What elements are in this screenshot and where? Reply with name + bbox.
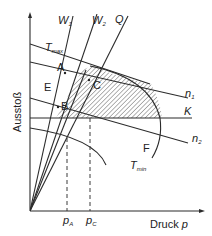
x-axis-label: Druck p — [150, 218, 188, 230]
operating-map-diagram: Ausstoß Druck p W1 W2 Q Tmax n1 K n2 Tmi… — [0, 0, 212, 236]
tmax-label: Tmax — [45, 41, 64, 54]
n1-label: n1 — [185, 87, 194, 100]
n2-label: n2 — [192, 132, 202, 145]
x-axis-arrow-icon — [199, 209, 205, 213]
point-b-marker — [57, 106, 59, 108]
w2-label: W2 — [92, 14, 106, 27]
k-label: K — [184, 105, 192, 117]
region-f-label: F — [143, 142, 150, 154]
point-a-marker — [64, 72, 66, 74]
tmin-label: Tmin — [130, 159, 147, 172]
point-c-label: C — [93, 79, 101, 91]
point-c-marker — [88, 79, 90, 81]
q-label: Q — [115, 13, 124, 25]
point-b-label: B — [61, 100, 68, 112]
pa-tick-label: pA — [62, 214, 73, 227]
y-axis-label: Ausstoß — [11, 92, 23, 133]
region-e-label: E — [44, 81, 51, 93]
point-a-label: A — [57, 61, 65, 73]
pc-tick-label: pC — [85, 214, 97, 227]
y-axis-arrow-icon — [28, 12, 32, 18]
w1-label: W1 — [58, 14, 72, 27]
